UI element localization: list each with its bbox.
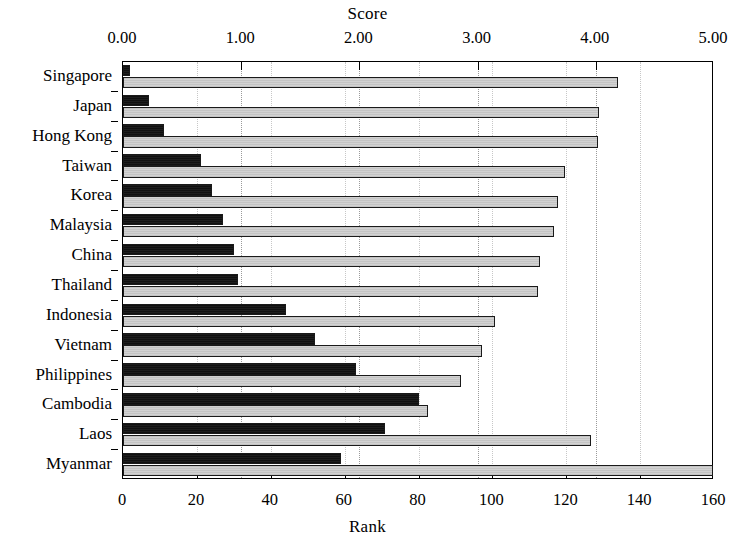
score-bar — [123, 375, 461, 387]
rank-tick-label: 40 — [262, 490, 279, 510]
top-axis-tick-labels: 0.001.002.003.004.005.00 — [0, 28, 735, 48]
category-tickmark — [111, 449, 118, 450]
category-tickmark — [111, 389, 118, 390]
bottom-axis-tick-labels: 020406080100120140160 — [0, 490, 735, 510]
bar-row — [123, 152, 712, 182]
rank-tick-label: 120 — [553, 490, 578, 510]
category-tickmark — [111, 270, 118, 271]
rank-bar — [123, 154, 201, 166]
score-bar — [123, 405, 428, 417]
category-label: Korea — [70, 185, 112, 205]
category-label: Thailand — [52, 275, 112, 295]
bar-rows — [123, 62, 712, 478]
bar-row — [123, 271, 712, 301]
category-label: Singapore — [43, 66, 112, 86]
rank-tick-label: 100 — [479, 490, 504, 510]
rank-bar — [123, 124, 164, 136]
category-label: Vietnam — [54, 335, 112, 355]
plot-area — [122, 61, 713, 479]
rank-tick-label: 0 — [118, 490, 126, 510]
score-bar — [123, 435, 591, 447]
rank-bar — [123, 333, 315, 345]
score-tick-label: 0.00 — [108, 28, 137, 48]
score-bar — [123, 136, 598, 148]
bar-row — [123, 361, 712, 391]
bar-chart: Score 0.001.002.003.004.005.00 Singapore… — [0, 0, 735, 546]
rank-bar — [123, 363, 356, 375]
category-tickmark — [111, 240, 118, 241]
category-tickmark — [111, 360, 118, 361]
bottom-axis-title: Rank — [0, 517, 735, 537]
bar-row — [123, 181, 712, 211]
score-bar — [123, 256, 540, 268]
rank-bar — [123, 65, 130, 77]
score-bar — [123, 166, 565, 178]
rank-bar — [123, 95, 149, 107]
score-tick-label: 4.00 — [580, 28, 609, 48]
bar-row — [123, 301, 712, 331]
bar-row — [123, 211, 712, 241]
score-bar — [123, 316, 495, 328]
category-label: Japan — [73, 96, 112, 116]
rank-bar — [123, 184, 212, 196]
score-tick-label: 1.00 — [226, 28, 255, 48]
category-label: Malaysia — [50, 215, 112, 235]
bar-row — [123, 450, 712, 480]
category-label: Taiwan — [62, 156, 112, 176]
score-tick-label: 3.00 — [462, 28, 491, 48]
rank-tick-label: 20 — [188, 490, 205, 510]
category-tickmark — [111, 419, 118, 420]
category-tickmark — [111, 180, 118, 181]
bar-row — [123, 241, 712, 271]
category-tickmark — [111, 210, 118, 211]
bar-row — [123, 331, 712, 361]
rank-bar — [123, 244, 234, 256]
category-label: Cambodia — [42, 394, 112, 414]
score-bar — [123, 286, 538, 298]
score-bar — [123, 196, 558, 208]
rank-bar — [123, 393, 419, 405]
rank-bar — [123, 304, 286, 316]
category-tickmark — [111, 91, 118, 92]
category-label: Indonesia — [46, 305, 112, 325]
bar-row — [123, 390, 712, 420]
rank-tick-label: 160 — [701, 490, 726, 510]
category-tickmark — [111, 300, 118, 301]
top-axis-title: Score — [0, 4, 735, 24]
score-bar — [123, 465, 713, 477]
bar-row — [123, 92, 712, 122]
score-bar — [123, 107, 599, 119]
bar-row — [123, 122, 712, 152]
score-tick-label: 2.00 — [344, 28, 373, 48]
rank-tick-label: 140 — [627, 490, 652, 510]
category-label: Laos — [79, 424, 112, 444]
rank-tick-label: 60 — [335, 490, 352, 510]
rank-bar — [123, 453, 341, 465]
rank-bar — [123, 214, 223, 226]
category-tickmark — [111, 121, 118, 122]
category-axis: SingaporeJapanHong KongTaiwanKoreaMalays… — [0, 61, 118, 479]
rank-bar — [123, 423, 385, 435]
category-tickmark — [111, 330, 118, 331]
category-label: China — [71, 245, 112, 265]
score-bar — [123, 77, 618, 89]
category-label: Philippines — [35, 365, 112, 385]
rank-tick-label: 80 — [409, 490, 426, 510]
score-bar — [123, 226, 554, 238]
score-tick-label: 5.00 — [699, 28, 728, 48]
category-tickmark — [111, 151, 118, 152]
category-label: Hong Kong — [32, 126, 112, 146]
bar-row — [123, 420, 712, 450]
bar-row — [123, 62, 712, 92]
rank-bar — [123, 274, 238, 286]
score-bar — [123, 345, 482, 357]
category-label: Myanmar — [46, 454, 112, 474]
